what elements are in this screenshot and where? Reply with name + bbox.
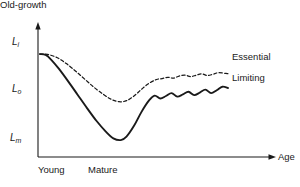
chart-plot-area — [0, 0, 300, 187]
y-tick-lo-sub: o — [18, 88, 22, 95]
x-stage-label-young: Young — [38, 165, 65, 175]
y-tick-li-base: L — [12, 36, 18, 47]
series-line-limiting — [40, 54, 228, 140]
y-tick-label-li: Li — [12, 37, 19, 47]
x-axis-title: Age — [278, 152, 295, 162]
y-tick-lm-sub: m — [16, 137, 22, 144]
forest-resource-level-chart: Li Lo Lm Young Mature Old-growth Age Ess… — [0, 0, 300, 187]
x-axis-arrowhead — [269, 154, 277, 159]
y-tick-lo-base: L — [12, 83, 18, 94]
y-tick-label-lm: Lm — [10, 133, 21, 143]
y-tick-label-lo: Lo — [12, 84, 21, 94]
series-line-essential — [40, 54, 228, 102]
x-stage-label-mature: Mature — [88, 165, 118, 175]
legend-label-limiting: Limiting — [232, 73, 265, 83]
y-tick-li-sub: i — [18, 41, 20, 48]
y-axis-arrowhead — [35, 22, 40, 30]
legend-label-essential: Essential — [232, 52, 271, 62]
x-stage-label-old-growth: Old-growth — [0, 0, 46, 10]
y-tick-lm-base: L — [10, 132, 16, 143]
